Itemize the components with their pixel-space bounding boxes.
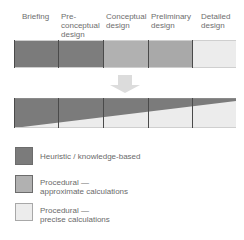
bottom-bar-edge [14,67,236,68]
legend-label-heuristic: Heuristic / knowledge-based [40,152,141,161]
top-stage-bar [14,40,236,68]
top-cell-conceptual [103,40,148,68]
down-arrow-icon [108,75,142,93]
stage-header-preliminary: Preliminary design [151,12,191,30]
legend-swatch-precise [15,203,33,221]
legend-label-approximate: Procedural — approximate calculations [40,178,128,196]
transition-gradient-graphic [14,98,236,128]
top-cell-detailed [192,40,236,68]
divider [148,40,149,68]
stage-header-detailed: Detailed design [201,12,230,30]
top-cell-preliminary [148,40,192,68]
stage-header-conceptual: Conceptual design [106,12,146,30]
divider [14,40,15,68]
bottom-transition-bar [14,98,236,128]
legend-swatch-heuristic [15,147,33,165]
stage-header-briefing: Briefing [22,12,49,21]
divider [58,40,59,68]
divider [192,40,193,68]
divider [103,40,104,68]
legend-swatch-approximate [15,175,33,193]
top-cell-pre-conceptual [58,40,103,68]
top-cell-briefing [14,40,58,68]
top-bar-edge [14,40,236,41]
stage-header-pre-conceptual: Pre- conceptual design [61,12,100,39]
legend-label-precise: Procedural — precise calculations [40,206,110,224]
